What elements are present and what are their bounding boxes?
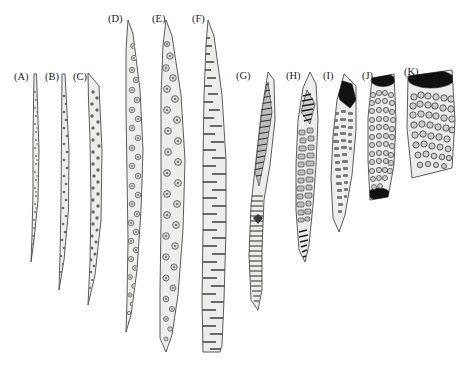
- specimen-plate-svg: (A) (B) (C) (D) (E) (F) (G) (H) (I) (J) …: [0, 0, 464, 366]
- specimen-E: [160, 20, 185, 352]
- specimen-I: [331, 74, 356, 232]
- label-I: (I): [323, 70, 334, 82]
- specimen-C: [88, 73, 102, 305]
- dark-apex-cap-J: [371, 74, 395, 87]
- specimen-A: [31, 74, 39, 262]
- label-J: (J): [362, 70, 374, 82]
- specimen-B: [59, 74, 69, 290]
- specimen-K: [407, 70, 455, 178]
- label-K: (K): [404, 66, 419, 78]
- dark-basal-cap-J: [368, 188, 390, 200]
- label-B: (B): [45, 71, 60, 83]
- label-A: (A): [14, 71, 29, 83]
- specimen-F: [202, 20, 226, 352]
- label-H: (H): [286, 70, 301, 82]
- label-G: (G): [236, 70, 251, 82]
- figure-plate: (A) (B) (C) (D) (E) (F) (G) (H) (I) (J) …: [0, 0, 464, 366]
- label-E: (E): [152, 13, 166, 25]
- label-F: (F): [192, 13, 205, 25]
- label-D: (D): [108, 13, 123, 25]
- specimen-J: [368, 74, 396, 201]
- specimen-H: [296, 72, 318, 262]
- specimen-D: [126, 20, 143, 332]
- specimen-G: [249, 72, 275, 310]
- label-C: (C): [73, 71, 88, 83]
